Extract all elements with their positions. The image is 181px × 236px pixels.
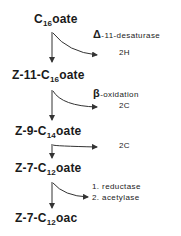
chain-shortening-product: 2C [119,141,130,150]
beta-oxidation-label: β-oxidation [93,87,139,99]
compound-z7-c12-oate: Z-7-C12oate [15,161,81,177]
compound-c16-oate: C16oate [34,12,78,28]
reductase-label: 1. reductase [92,182,141,191]
desaturase-label: Δ-11-desaturase [93,28,160,40]
beta-oxidation-product: 2C [119,101,130,110]
acetylase-label: 2. acetylase [92,193,140,202]
desaturase-product: 2H [119,48,130,57]
compound-z7-c12-oac: Z-7-C12oac [15,211,77,227]
compound-z11-c16-oate: Z-11-C16oate [12,68,85,84]
compound-z9-c14-oate: Z-9-C14oate [15,124,81,140]
